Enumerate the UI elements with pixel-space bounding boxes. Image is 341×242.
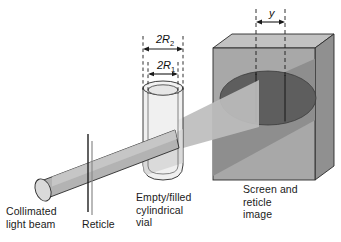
y-arrowhead-right (279, 20, 285, 25)
inner-dim-arrowhead-left (148, 72, 154, 76)
label-reticle-image-separation: y (269, 7, 275, 19)
optics-diagram: Collimated light beam Reticle Empty/fill… (0, 0, 341, 242)
outer-diameter-symbol: 2R (156, 33, 170, 45)
label-cylindrical-vial: Empty/filled cylindrical vial (136, 191, 191, 229)
vial-inner-rim (148, 85, 178, 95)
inner-diameter-symbol: 2R (157, 59, 171, 71)
label-reticle: Reticle (82, 218, 115, 231)
y-symbol: y (269, 7, 275, 19)
screen-top-face (213, 34, 334, 48)
label-collimated-light-beam: Collimated light beam (6, 205, 57, 230)
screen-side-face (315, 34, 334, 180)
y-arrowhead-left (256, 20, 262, 25)
outer-diameter-subscript: 2 (170, 39, 174, 48)
label-screen-and-reticle-image: Screen and reticle image (243, 183, 298, 221)
label-outer-diameter: 2R2 (156, 33, 174, 48)
label-inner-diameter: 2R1 (157, 59, 175, 74)
cylindrical-vial (143, 81, 183, 180)
outer-dim-arrowhead-left (143, 47, 149, 52)
outer-dim-arrowhead-right (177, 47, 183, 52)
inner-diameter-subscript: 1 (171, 65, 175, 74)
